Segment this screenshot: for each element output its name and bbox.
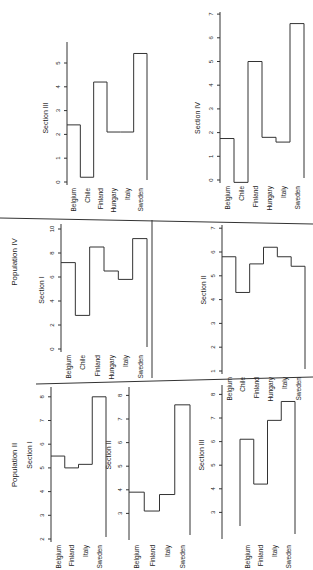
tick-label: 2 [55, 132, 61, 136]
category-label: Sweden [137, 355, 144, 379]
tick-label: 4 [39, 489, 45, 493]
tick-label: 4 [208, 83, 214, 87]
step-series [240, 401, 295, 534]
tick-label: 3 [210, 510, 216, 514]
axis-title: Section I [38, 276, 45, 303]
tick-label: 2 [49, 323, 55, 327]
category-label: Hungary [110, 187, 118, 212]
tick-label: 7 [117, 417, 123, 421]
tick-label: 5 [210, 463, 216, 467]
category-label: Belgium [224, 186, 232, 209]
tick-label: 5 [55, 61, 61, 65]
category-label: Sweden [294, 186, 301, 210]
category-label: Belgium [65, 355, 73, 378]
tick-label: 2 [208, 130, 214, 134]
category-label: Italy [271, 544, 279, 557]
tick-label: 2 [39, 537, 45, 541]
tick-label: 0 [49, 347, 55, 351]
tick-label: 4 [49, 299, 55, 303]
tick-label: 6 [210, 439, 216, 443]
category-label: Italy [124, 187, 132, 200]
category-label: Hungary [108, 354, 116, 379]
tick-label: 3 [117, 511, 123, 515]
category-label: Belgium [226, 377, 234, 400]
axis-title: Section IV [194, 102, 201, 134]
step-series [222, 247, 305, 369]
category-label: Belgium [55, 545, 63, 568]
group-label-population-ii: Population II [10, 443, 19, 487]
tick-label: 7 [210, 416, 216, 420]
tick-label: 6 [49, 275, 55, 279]
category-label: Sweden [285, 545, 292, 569]
category-label: Finland [257, 545, 264, 567]
category-label: Italy [280, 185, 288, 198]
category-label: Hungary [266, 185, 274, 210]
category-label: Italy [164, 544, 172, 557]
category-label: Chile [239, 377, 246, 392]
category-label: Sweden [137, 188, 144, 212]
category-label: Belgium [244, 545, 252, 568]
tick-label: 2 [210, 345, 216, 349]
tick-label: 5 [210, 273, 216, 277]
category-label: Finland [252, 186, 259, 208]
tick-label: 4 [55, 84, 61, 88]
category-label: Sweden [295, 377, 302, 401]
category-label: Italy [122, 354, 130, 367]
group-label-population-iv: Population IV [10, 238, 19, 286]
tick-label: 1 [208, 154, 214, 158]
axis-title: Section I [26, 441, 33, 468]
category-label: Italy [82, 544, 90, 557]
step-series [129, 405, 190, 535]
category-label: Finland [149, 545, 156, 567]
tick-label: 6 [210, 250, 216, 254]
tick-label: 5 [39, 466, 45, 470]
axis-title: Section III [42, 102, 49, 133]
group-divider [0, 218, 313, 224]
tick-label: 4 [117, 487, 123, 491]
tick-label: 7 [210, 226, 216, 230]
tick-label: 1 [210, 369, 216, 373]
tick-label: 4 [210, 297, 216, 301]
category-label: Belgium [70, 188, 78, 211]
category-label: Italy [281, 376, 289, 389]
tick-label: 10 [49, 225, 55, 232]
tick-label: 0 [208, 178, 214, 182]
category-label: Chile [238, 186, 245, 201]
step-series [61, 239, 147, 347]
category-label: Chile [84, 188, 91, 203]
tick-label: 8 [39, 394, 45, 398]
tick-label: 8 [117, 393, 123, 397]
tick-label: 0 [55, 180, 61, 184]
tick-label: 3 [55, 108, 61, 112]
rotated-step-chart-figure: Population IVPopulation II012345Section … [0, 0, 313, 570]
tick-label: 3 [208, 107, 214, 111]
tick-label: 5 [117, 464, 123, 468]
category-label: Finland [68, 545, 75, 567]
category-label: Belgium [133, 545, 141, 568]
tick-label: 6 [117, 440, 123, 444]
tick-label: 4 [210, 486, 216, 490]
tick-label: 3 [210, 321, 216, 325]
tick-label: 7 [208, 12, 214, 16]
axis-title: Section II [200, 275, 207, 304]
tick-label: 1 [55, 156, 61, 160]
axis-title: Section III [198, 439, 205, 470]
tick-label: 8 [49, 251, 55, 255]
tick-label: 7 [39, 418, 45, 422]
axis-title: Section II [105, 440, 112, 469]
category-label: Finland [253, 377, 260, 399]
category-label: Finland [97, 188, 104, 210]
tick-label: 6 [39, 442, 45, 446]
step-series [220, 24, 304, 183]
category-label: Hungary [267, 376, 275, 401]
category-label: Chile [79, 355, 86, 370]
category-label: Finland [94, 355, 101, 377]
tick-label: 5 [208, 59, 214, 63]
step-series [51, 397, 106, 537]
tick-label: 3 [39, 513, 45, 517]
category-label: Sweden [179, 545, 186, 569]
step-series [67, 53, 147, 180]
tick-label: 8 [210, 392, 216, 396]
category-label: Sweden [96, 545, 103, 569]
tick-label: 6 [208, 35, 214, 39]
